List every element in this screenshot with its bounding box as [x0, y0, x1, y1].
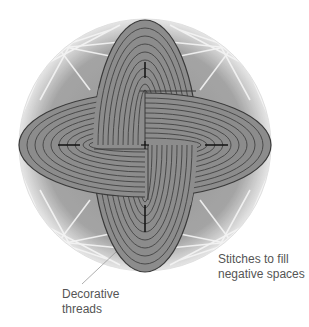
- label-decorative-line2: threads: [62, 302, 119, 317]
- label-decorative: Decorative threads: [62, 287, 119, 317]
- label-stitches-line1: Stitches to fill: [218, 252, 305, 267]
- label-stitches-line2: negative spaces: [218, 267, 305, 282]
- label-decorative-line1: Decorative: [62, 287, 119, 302]
- label-stitches: Stitches to fill negative spaces: [218, 252, 305, 282]
